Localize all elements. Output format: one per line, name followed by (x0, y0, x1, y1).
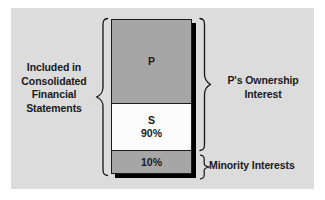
left-label-line-3: Financial (14, 88, 94, 102)
left-label-line-4: Statements (14, 102, 94, 116)
left-label-line-1: Included in (14, 61, 94, 75)
minority-interests-label: Minority Interests (209, 159, 321, 173)
parent-label: P (148, 55, 155, 68)
ownership-label-line-2: Interest (211, 88, 315, 102)
minority-share-label: 10% (141, 156, 162, 169)
stack-segment-subsidiary-majority: S 90% (112, 104, 191, 151)
subsidiary-label: S (148, 114, 155, 127)
left-label-line-2: Consolidated (14, 75, 94, 89)
ownership-label-line-1: P's Ownership (211, 74, 315, 88)
p-ownership-interest-label: P's Ownership Interest (211, 74, 315, 101)
stack-segment-minority: 10% (112, 151, 191, 173)
included-in-consolidated-financial-statements-label: Included in Consolidated Financial State… (14, 61, 94, 115)
minority-label-line-1: Minority Interests (209, 159, 321, 173)
left-curly-brace-icon (95, 17, 109, 177)
ownership-stack: P S 90% 10% (111, 19, 192, 174)
right-curly-brace-ownership-icon (198, 17, 212, 152)
stack-segment-parent: P (112, 20, 191, 104)
subsidiary-share-label: 90% (141, 127, 162, 140)
diagram-figure: Included in Consolidated Financial State… (0, 0, 325, 200)
